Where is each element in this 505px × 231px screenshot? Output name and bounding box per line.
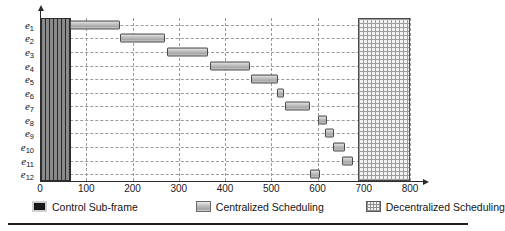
- y-tick-label-e2: e2: [8, 32, 34, 44]
- bar-e4: [210, 61, 250, 70]
- x-tick-label-800: 800: [402, 183, 419, 195]
- horizontal-gridline-e12: [40, 174, 410, 175]
- horizontal-gridline-e6: [40, 93, 410, 94]
- bar-e12: [310, 170, 320, 179]
- horizontal-gridline-e8: [40, 120, 410, 121]
- chart-legend: Control Sub-frameCentralized SchedulingD…: [32, 198, 452, 215]
- x-axis: [40, 181, 424, 182]
- x-tick-label-500: 500: [263, 183, 280, 195]
- bar-e3: [167, 47, 208, 56]
- legend-item-control: Control Sub-frame: [32, 201, 138, 213]
- y-tick-label-e4: e4: [8, 60, 34, 72]
- legend-swatch-control: [32, 201, 47, 212]
- x-tick-label-0: 0: [37, 183, 43, 195]
- vertical-gridline-400: [225, 18, 226, 181]
- bar-e9: [325, 129, 334, 138]
- y-tick-label-e10: e10: [8, 141, 34, 153]
- y-label-base: e: [21, 141, 26, 153]
- vertical-gridline-800: [410, 18, 411, 181]
- y-tick-label-e3: e3: [8, 46, 34, 58]
- legend-label-decentralized: Decentralized Scheduling: [386, 201, 505, 213]
- plot-area: [40, 18, 410, 181]
- vertical-gridline-300: [179, 18, 180, 181]
- vertical-gridline-500: [271, 18, 272, 181]
- horizontal-gridline-e7: [40, 106, 410, 107]
- legend-swatch-centralized: [196, 201, 211, 212]
- y-label-subscript: 12: [26, 173, 34, 182]
- legend-label-centralized: Centralized Scheduling: [216, 201, 324, 213]
- vertical-gridline-100: [86, 18, 87, 181]
- legend-label-control: Control Sub-frame: [52, 201, 138, 213]
- bottom-divider-rule: [8, 223, 468, 225]
- y-label-base: e: [21, 168, 26, 180]
- y-tick-label-e6: e6: [8, 87, 34, 99]
- bar-e8: [318, 115, 327, 124]
- bar-e2: [120, 34, 165, 43]
- y-tick-label-e12: e12: [8, 168, 34, 180]
- bar-e5: [251, 75, 278, 84]
- x-tick-label-400: 400: [217, 183, 234, 195]
- bar-e6: [277, 88, 284, 97]
- horizontal-gridline-e5: [40, 79, 410, 80]
- y-tick-label-e7: e7: [8, 100, 34, 112]
- x-tick-label-100: 100: [78, 183, 95, 195]
- legend-item-decentralized: Decentralized Scheduling: [366, 201, 505, 213]
- x-tick-label-700: 700: [355, 183, 372, 195]
- horizontal-gridline-e9: [40, 133, 410, 134]
- legend-item-centralized: Centralized Scheduling: [196, 201, 324, 213]
- bar-e11: [342, 156, 353, 165]
- decentralized-block: [358, 18, 410, 181]
- vertical-gridline-600: [318, 18, 319, 181]
- horizontal-gridline-e3: [40, 52, 410, 53]
- y-tick-label-e9: e9: [8, 127, 34, 139]
- horizontal-gridline-e2: [40, 38, 410, 39]
- legend-swatch-decentralized: [366, 201, 381, 212]
- horizontal-gridline-e11: [40, 161, 410, 162]
- control-block: [40, 18, 71, 181]
- y-tick-label-e8: e8: [8, 114, 34, 126]
- bar-e10: [333, 143, 345, 152]
- x-tick-label-200: 200: [124, 183, 141, 195]
- bar-e7: [285, 102, 310, 111]
- x-tick-label-600: 600: [309, 183, 326, 195]
- x-tick-label-300: 300: [170, 183, 187, 195]
- horizontal-gridline-e10: [40, 147, 410, 148]
- y-tick-label-e1: e1: [8, 19, 34, 31]
- y-tick-label-e5: e5: [8, 73, 34, 85]
- y-tick-label-e11: e11: [8, 155, 34, 167]
- bar-e1: [70, 20, 120, 29]
